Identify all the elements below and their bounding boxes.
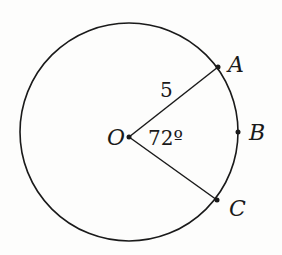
label-A: A [226,52,244,77]
angle-label: 72º [148,126,183,150]
point-C-dot [215,198,220,203]
circle [20,23,238,241]
label-C: C [229,196,246,221]
point-O-dot [127,135,132,140]
circle-diagram: O A B C 5 72º [0,0,282,255]
label-O: O [107,125,125,150]
label-B: B [248,120,265,145]
point-B-dot [236,130,241,135]
point-A-dot [216,65,221,70]
radius-length-label: 5 [160,78,173,102]
